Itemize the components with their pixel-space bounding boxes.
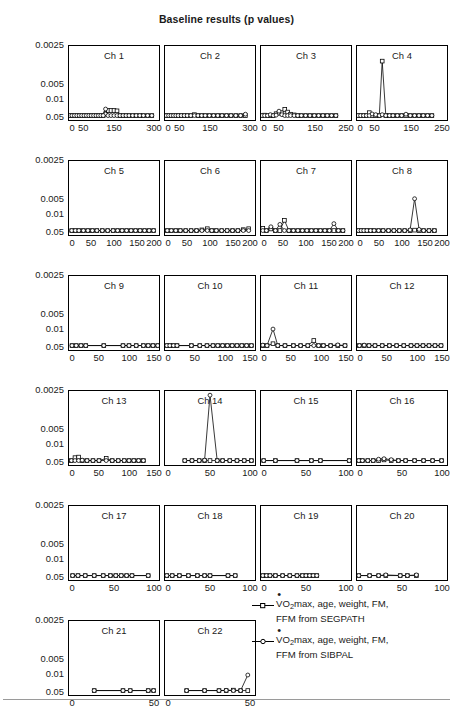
panel-ch-20: Ch 20: [356, 505, 448, 581]
bottom-divider: [3, 699, 450, 700]
data-point-circle: [79, 344, 83, 348]
data-point-circle: [169, 229, 173, 233]
series-line-sibpal: [185, 395, 252, 460]
data-point-circle: [308, 114, 312, 118]
y-tick-label: 0.01: [46, 669, 64, 678]
data-point-circle: [141, 459, 145, 463]
x-tick-label: 150: [146, 468, 162, 478]
x-tick-label: 200: [434, 238, 450, 248]
data-point-circle: [127, 459, 131, 463]
data-point-circle: [396, 459, 400, 463]
data-point-circle: [387, 344, 391, 348]
x-tick-label: 250: [434, 123, 450, 133]
legend-label: VO2max, age, weight, FM,FFM from SIBPAL: [276, 634, 452, 661]
data-point-circle: [110, 459, 114, 463]
data-point-circle: [381, 229, 385, 233]
x-tick-label: 150: [338, 353, 354, 363]
data-point-circle: [203, 114, 207, 118]
data-point-circle: [318, 459, 322, 463]
data-point-circle: [245, 344, 249, 348]
x-tick-label: 0: [69, 468, 74, 478]
data-point-circle: [120, 229, 124, 233]
data-point-circle: [156, 344, 159, 348]
data-point-circle: [392, 229, 396, 233]
x-tick-label: 150: [434, 353, 450, 363]
x-tick-label: 0: [69, 583, 74, 593]
x-tick-label: 100: [122, 353, 138, 363]
legend-label: VO2max, age, weight, FM,FFM from SEGPATH: [276, 598, 452, 625]
x-tick-label: 50: [301, 468, 311, 478]
data-point-circle: [74, 344, 78, 348]
data-point-circle: [116, 229, 120, 233]
data-point-circle: [380, 344, 384, 348]
data-point-circle: [76, 574, 80, 578]
legend-marker-circle-icon: [252, 637, 274, 646]
data-point-circle: [185, 689, 189, 693]
x-tick-label: 150: [321, 238, 337, 248]
data-point-circle: [315, 574, 319, 578]
data-point-circle: [100, 229, 104, 233]
x-axis-ticks-ch-13: 050100150: [68, 467, 160, 481]
x-tick-label: 150: [403, 123, 419, 133]
data-point-square: [208, 459, 212, 463]
x-axis-ticks-ch-1: 050150300: [68, 122, 160, 136]
x-tick-label: 100: [314, 353, 330, 363]
data-point-circle: [426, 114, 430, 118]
x-axis-ticks-ch-2: 050150300: [164, 122, 256, 136]
x-tick-label: 0: [69, 123, 74, 133]
panel-ch-19: Ch 19: [260, 505, 352, 581]
data-point-circle: [186, 574, 190, 578]
data-point-circle: [321, 344, 325, 348]
data-point-circle: [225, 229, 229, 233]
data-point-circle: [312, 344, 316, 348]
y-tick-label: 0.05: [46, 227, 64, 236]
data-point-circle: [195, 574, 199, 578]
x-tick-label: 50: [205, 468, 215, 478]
data-point-circle: [261, 343, 265, 347]
data-point-circle: [249, 344, 253, 348]
data-point-circle: [111, 229, 115, 233]
data-point-circle: [300, 229, 304, 233]
x-tick-label: 0: [165, 353, 170, 363]
data-point-circle: [317, 114, 321, 118]
x-tick-label: 100: [434, 583, 450, 593]
data-point-circle: [265, 344, 269, 348]
data-point-circle: [165, 574, 169, 578]
data-point-circle: [128, 689, 132, 693]
panel-ch-11: Ch 11: [260, 275, 352, 351]
x-tick-label: 50: [86, 238, 96, 248]
x-tick-label: 0: [357, 583, 362, 593]
data-point-circle: [101, 114, 105, 118]
x-tick-label: 50: [397, 468, 407, 478]
panel-ch-15: Ch 15: [260, 390, 352, 466]
x-axis-ticks-ch-5: 050100150200: [68, 237, 160, 251]
data-point-circle: [189, 344, 193, 348]
data-point-circle: [413, 197, 417, 201]
x-tick-label: 100: [410, 353, 426, 363]
data-point-circle: [262, 459, 266, 463]
data-point-circle: [241, 229, 245, 233]
data-point-circle: [231, 229, 235, 233]
y-axis-labels-row-3: 0.00250.0050.010.05: [0, 275, 66, 351]
y-tick-label: 0.0025: [35, 155, 64, 164]
data-point-circle: [221, 459, 225, 463]
panel-ch-3: Ch 3: [260, 45, 352, 121]
x-axis-ticks-ch-11: 050100150: [260, 352, 352, 366]
data-point-circle: [387, 229, 391, 233]
data-point-circle: [377, 229, 381, 233]
data-point-circle: [216, 344, 220, 348]
x-axis-ticks-ch-20: 050100: [356, 582, 448, 596]
panel-ch-8: Ch 8: [356, 160, 448, 236]
y-axis-labels-row-1: 0.00250.0050.010.05: [0, 45, 66, 121]
data-point-circle: [210, 229, 214, 233]
y-axis-labels-row-6: 0.00250.0050.010.05: [0, 620, 66, 696]
x-tick-label: 150: [129, 238, 145, 248]
data-point-circle: [277, 109, 281, 113]
data-point-circle: [395, 114, 399, 118]
y-tick-label: 0.005: [41, 79, 64, 88]
x-tick-label: 0: [165, 583, 170, 593]
y-axis-labels-row-5: 0.00250.0050.010.05: [0, 505, 66, 581]
data-point-circle: [371, 459, 375, 463]
data-point-circle: [273, 574, 277, 578]
x-axis-ticks-ch-8: 050100150200: [356, 237, 448, 251]
